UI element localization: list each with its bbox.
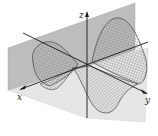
y-axis-label: y: [144, 95, 151, 105]
z-axis-arrow-icon: [85, 11, 89, 17]
x-axis-label: x: [17, 92, 22, 102]
surface-diagram: z x y: [0, 0, 158, 136]
z-axis-label: z: [78, 10, 84, 20]
